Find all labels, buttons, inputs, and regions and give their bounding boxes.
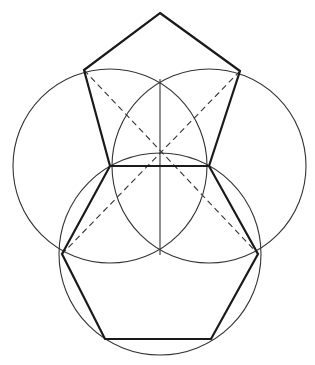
geometric-construction-diagram — [0, 0, 315, 365]
diagonal-right-to-left — [62, 71, 240, 254]
pentagon-shape — [84, 13, 240, 166]
